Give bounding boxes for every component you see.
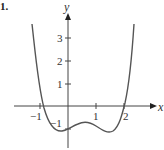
- function-plot: [0, 0, 164, 150]
- x-tick-label-2: 2: [123, 111, 129, 122]
- y-tick-label-neg1: −1: [50, 118, 62, 129]
- y-axis-label: y: [64, 0, 69, 15]
- function-curve: [32, 24, 134, 132]
- y-tick-label-3: 3: [57, 33, 63, 44]
- x-axis-arrow-icon: [150, 103, 157, 109]
- x-axis-label: x: [158, 100, 163, 115]
- x-tick-label-1: 1: [93, 111, 99, 122]
- y-tick-label-2: 2: [57, 56, 63, 67]
- x-tick-label-neg1: −1: [30, 111, 42, 122]
- y-tick-label-1: 1: [57, 79, 63, 90]
